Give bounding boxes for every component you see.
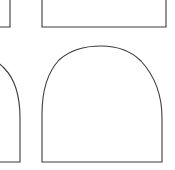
arch-outline-top-center-cropped [42,0,166,27]
arch-outline-top-left-cropped [0,0,10,27]
shape-drawing [0,0,175,170]
shape-canvas [0,0,175,170]
arch-outline-mid-center [42,46,162,162]
arch-outline-mid-left-cropped [0,53,20,162]
